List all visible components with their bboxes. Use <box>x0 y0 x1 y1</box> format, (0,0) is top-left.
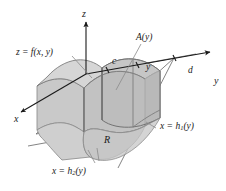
boundary-h2-suffix: (y) <box>75 166 86 176</box>
tick-label-y: y <box>146 63 150 73</box>
z-axis-label: z <box>82 9 86 19</box>
base-region-label: R <box>104 135 110 145</box>
figure-svg <box>0 0 226 191</box>
figure-container: z y x c y d z = f(x, y) A(y) R x = h1(y)… <box>0 0 226 191</box>
boundary-h1-label: x = h1(y) <box>160 122 194 132</box>
tick-label-d: d <box>188 66 193 76</box>
boundary-h1-prefix: x = h <box>160 121 180 131</box>
x-axis-label: x <box>14 114 18 124</box>
y-axis-label: y <box>214 76 218 86</box>
boundary-h2-prefix: x = h <box>52 166 72 176</box>
cross-section-label: A(y) <box>136 33 152 43</box>
boundary-h1-suffix: (y) <box>183 121 194 131</box>
tick-label-c: c <box>112 57 116 67</box>
surface-equation-label: z = f(x, y) <box>16 48 53 58</box>
solid-region <box>37 59 160 161</box>
boundary-h2-label: x = h2(y) <box>52 167 86 177</box>
